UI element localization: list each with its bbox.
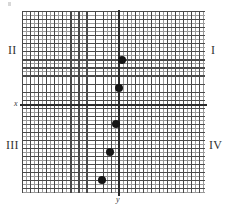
y-axis-line [118,10,120,196]
quadrant-label-i: I [211,44,215,56]
coordinate-plane-figure: x y I II III IV [0,0,229,210]
data-point [118,56,126,64]
data-point [115,84,123,92]
x-axis-line [20,104,207,106]
x-axis-label: x [14,100,18,108]
y-axis-label: y [116,196,120,204]
data-point [106,148,114,156]
graph-paper-grid [22,11,205,193]
quadrant-label-iv: IV [209,139,222,151]
data-point [112,120,120,128]
data-point [98,176,106,184]
corner-artifact [8,2,11,6]
quadrant-label-ii: II [8,44,17,56]
quadrant-label-iii: III [6,139,19,151]
